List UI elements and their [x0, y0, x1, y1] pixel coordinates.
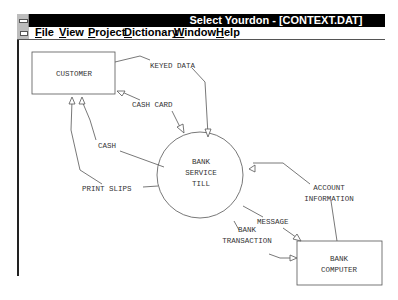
- process-label-1: BANK: [192, 158, 211, 166]
- customer-label: CUSTOMER: [56, 70, 93, 78]
- arrowhead: [293, 234, 301, 241]
- arrowhead: [290, 255, 297, 261]
- terminator-bank-computer[interactable]: [297, 241, 382, 285]
- flow-keyed-data: KEYED DATA: [150, 62, 196, 70]
- bank-computer-label-2: COMPUTER: [321, 266, 358, 274]
- process-label-3: TILL: [192, 180, 211, 188]
- flow-message: MESSAGE: [257, 218, 289, 226]
- process-label-2: SERVICE: [185, 169, 217, 177]
- flow-print-slips: PRINT SLIPS: [82, 185, 132, 193]
- flow-bank-transaction-1: BANK: [238, 226, 257, 234]
- bank-computer-label-1: BANK: [330, 255, 349, 263]
- flow-account-information-2: INFORMATION: [304, 195, 354, 203]
- flow-account-information-1: ACCOUNT: [313, 184, 345, 192]
- arrowhead: [177, 124, 184, 133]
- context-diagram: CUSTOMER BANK COMPUTER BANK SERVICE TILL…: [0, 0, 398, 300]
- arrowhead: [79, 97, 85, 104]
- arrowhead: [69, 97, 75, 104]
- flow-cash-card: CASH CARD: [132, 101, 173, 109]
- flow-bank-transaction-2: TRANSACTION: [222, 237, 272, 245]
- arrowhead: [249, 165, 255, 172]
- arrowhead: [117, 91, 125, 96]
- flow-cash: CASH: [98, 142, 116, 150]
